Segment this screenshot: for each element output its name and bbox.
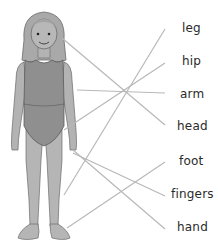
- label-foot: foot: [179, 154, 203, 168]
- label-hand: hand: [177, 220, 208, 234]
- line-foot: [67, 162, 165, 228]
- line-head: [62, 38, 165, 125]
- label-arm: arm: [180, 87, 204, 101]
- line-hip: [64, 63, 165, 130]
- label-fingers: fingers: [171, 187, 214, 201]
- label-hip: hip: [182, 54, 201, 68]
- label-head: head: [177, 119, 208, 133]
- label-leg: leg: [182, 21, 201, 35]
- matching-diagram: leg hip arm head foot fingers hand: [0, 0, 218, 247]
